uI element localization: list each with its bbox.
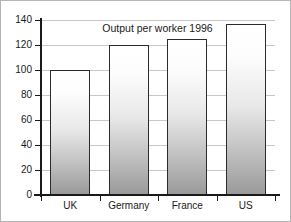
x-axis-label: France	[172, 201, 203, 211]
x-axis-tick	[158, 195, 159, 201]
x-axis-line	[34, 194, 280, 196]
y-axis-label: 140	[15, 15, 32, 25]
bar-chart-figure: Output per worker 1996 02040608010012014…	[0, 0, 291, 222]
gridline	[41, 20, 275, 21]
y-axis-label: 40	[21, 140, 32, 150]
y-axis-label: 20	[21, 165, 32, 175]
x-axis-label: UK	[63, 201, 77, 211]
y-axis-line	[40, 18, 42, 197]
plot-area: 020406080100120140	[41, 20, 275, 195]
bar	[167, 39, 207, 195]
x-axis-label: US	[239, 201, 253, 211]
y-axis-label: 100	[15, 65, 32, 75]
bar	[226, 24, 266, 195]
y-axis-label: 120	[15, 40, 32, 50]
y-axis-label: 80	[21, 90, 32, 100]
x-axis-label: Germany	[108, 201, 149, 211]
x-axis-tick	[100, 195, 101, 201]
x-axis-tick	[217, 195, 218, 201]
y-axis-label: 60	[21, 115, 32, 125]
bar	[109, 45, 149, 195]
x-axis-tick	[275, 195, 276, 201]
x-axis-tick	[41, 195, 42, 201]
y-axis-label: 0	[26, 190, 32, 200]
bar	[50, 70, 90, 195]
